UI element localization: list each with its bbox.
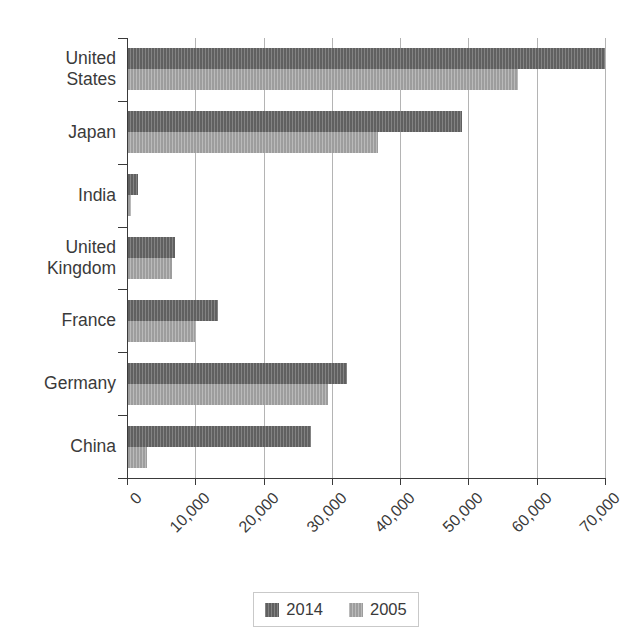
y-axis-tick — [118, 415, 127, 416]
legend-entry-2014: 2014 — [265, 600, 323, 619]
x-axis-tick — [400, 478, 401, 485]
y-axis-tick — [118, 101, 127, 102]
x-axis-tick — [537, 478, 538, 485]
bar-2005-germany — [127, 384, 328, 405]
bar-2005-france — [127, 321, 195, 342]
y-axis-line — [127, 38, 128, 479]
legend-swatch-2005 — [349, 603, 363, 617]
x-axis-tick — [264, 478, 265, 485]
legend-swatch-2014 — [265, 603, 279, 617]
gridline — [400, 38, 401, 478]
gridline — [605, 38, 606, 478]
plot-area — [127, 38, 605, 478]
gridline — [332, 38, 333, 478]
y-axis-tick — [118, 38, 127, 39]
bar-2005-united-kingdom — [127, 258, 172, 279]
bar-2014-india — [127, 174, 138, 195]
x-axis-tick — [127, 478, 128, 485]
y-axis-tick — [118, 478, 127, 479]
legend-label-2014: 2014 — [286, 600, 323, 619]
bar-2005-china — [127, 447, 147, 468]
y-axis-label-china: China — [70, 436, 116, 457]
x-axis-tick — [605, 478, 606, 485]
bar-2005-united-states — [127, 69, 518, 90]
gridline — [537, 38, 538, 478]
chart-legend: 2014 2005 — [253, 592, 419, 627]
bar-2005-japan — [127, 132, 378, 153]
bar-2014-japan — [127, 111, 462, 132]
y-axis-tick — [118, 227, 127, 228]
bar-2014-united-states — [127, 48, 605, 69]
bar-2014-france — [127, 300, 218, 321]
x-axis-line — [127, 478, 606, 479]
gridline — [468, 38, 469, 478]
y-axis-tick — [118, 164, 127, 165]
x-axis-tick — [332, 478, 333, 485]
y-axis-label-united-states: United States — [65, 48, 116, 90]
bar-2014-china — [127, 426, 311, 447]
y-axis-label-france: France — [62, 310, 116, 331]
bar-2014-germany — [127, 363, 347, 384]
gridline — [195, 38, 196, 478]
y-axis-tick — [118, 289, 127, 290]
legend-entry-2005: 2005 — [349, 600, 407, 619]
y-axis-label-japan: Japan — [68, 122, 116, 143]
x-axis-tick — [468, 478, 469, 485]
bar-chart: 2014 2005 010,00020,00030,00040,00050,00… — [0, 0, 640, 642]
legend-label-2005: 2005 — [370, 600, 407, 619]
y-axis-label-united-kingdom: United Kingdom — [47, 237, 116, 279]
y-axis-label-india: India — [78, 185, 116, 206]
gridline — [264, 38, 265, 478]
bar-2014-united-kingdom — [127, 237, 175, 258]
y-axis-label-germany: Germany — [44, 373, 116, 394]
x-axis-tick — [195, 478, 196, 485]
y-axis-tick — [118, 352, 127, 353]
